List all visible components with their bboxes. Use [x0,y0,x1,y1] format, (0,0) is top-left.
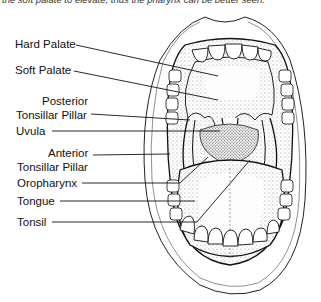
label-posterior-line2: Tonsillar Pillar [16,109,87,122]
label-hard-palate: Hard Palate [15,38,76,51]
label-oropharynx: Oropharynx [17,177,77,190]
label-tonsil: Tonsil [17,216,46,229]
label-posterior-line1: Posterior [42,95,88,108]
label-uvula: Uvula [16,125,45,138]
label-tongue: Tongue [17,195,55,208]
label-anterior-line1: Anterior [48,147,88,160]
label-anterior-line2: Tonsillar Pillar [17,161,88,174]
label-soft-palate: Soft Palate [15,64,71,77]
